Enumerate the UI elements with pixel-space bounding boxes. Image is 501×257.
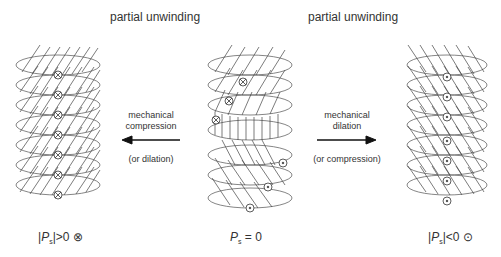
arrow-right-label-line2: dilation xyxy=(314,121,380,132)
arrow-left-label: mechanical compression xyxy=(118,110,184,132)
cross-circle-icon xyxy=(225,97,233,105)
arrow-left-label-line1: mechanical xyxy=(118,110,184,121)
dot-circle-icon xyxy=(443,113,451,121)
dot-circle-icon xyxy=(443,137,451,145)
arrow-right-label: mechanical dilation xyxy=(314,110,380,132)
arrow-left-sublabel: (or dilation) xyxy=(118,154,184,165)
right-helix xyxy=(407,45,487,205)
dot-circle-icon xyxy=(279,159,287,167)
dot-circle-icon xyxy=(443,177,451,185)
cross-circle-icon xyxy=(54,131,62,139)
dot-circle-icon xyxy=(443,93,451,101)
dot-circle-icon xyxy=(264,183,272,191)
caption-center: Ps = 0 xyxy=(230,230,262,245)
caption-right: |Ps|<0 ⊙ xyxy=(428,230,473,245)
cross-circle-icon xyxy=(54,91,62,99)
cross-circle-icon: ⊗ xyxy=(73,230,83,244)
diagram-canvas xyxy=(0,0,501,257)
dot-circle-icon xyxy=(443,157,451,165)
arrow-right-label-line1: mechanical xyxy=(314,110,380,121)
cross-circle-icon xyxy=(212,116,220,124)
dot-circle-icon: ⊙ xyxy=(463,230,473,244)
cross-circle-icon xyxy=(54,151,62,159)
center-helix xyxy=(208,45,292,212)
arrow-right-sublabel: (or compression) xyxy=(306,154,388,165)
cross-circle-icon xyxy=(54,71,62,79)
cross-circle-icon xyxy=(54,171,62,179)
center-helix-layers xyxy=(208,55,292,208)
caption-left: |Ps|>0 ⊗ xyxy=(38,230,83,245)
dot-circle-icon xyxy=(443,73,451,81)
arrow-left-icon xyxy=(122,136,180,144)
cross-circle-icon xyxy=(54,111,62,119)
cross-circle-icon xyxy=(239,78,247,86)
arrow-left-label-line2: compression xyxy=(118,121,184,132)
arrow-right-icon xyxy=(317,136,376,144)
cross-circle-icon xyxy=(54,191,62,199)
dot-circle-icon xyxy=(443,197,451,205)
left-helix xyxy=(16,45,100,199)
dot-circle-icon xyxy=(246,204,254,212)
